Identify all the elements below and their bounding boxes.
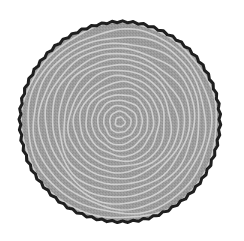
tree-cross-section [0, 0, 244, 241]
